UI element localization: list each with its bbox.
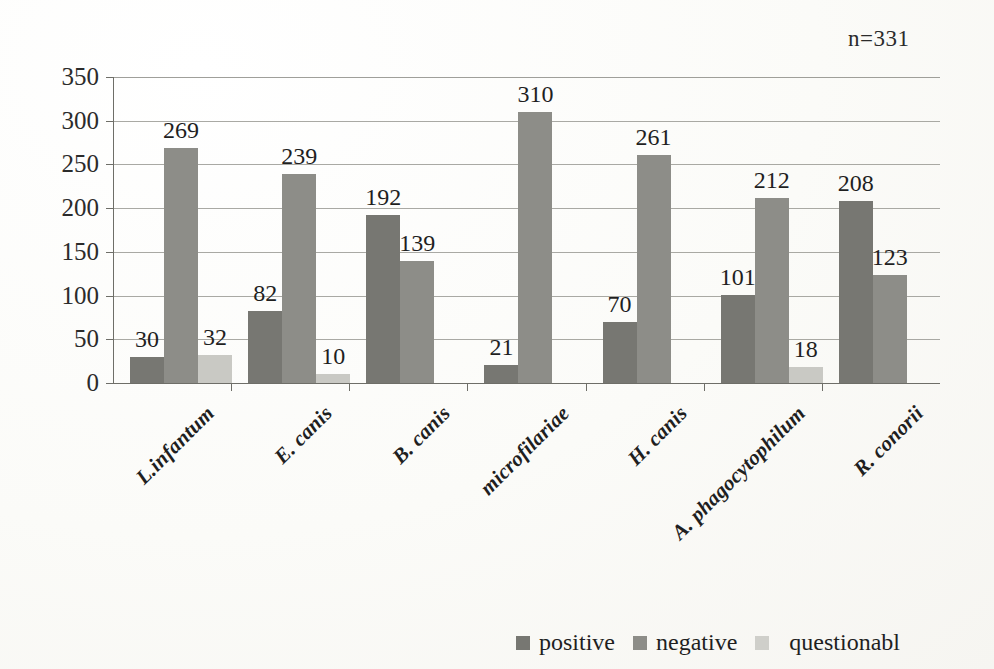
bar-negative-1[interactable] <box>282 174 316 383</box>
bar-positive-3[interactable] <box>484 365 518 383</box>
bar-value-negative-0: 269 <box>163 117 199 144</box>
bar-questionable-0[interactable] <box>198 355 232 383</box>
bar-value-negative-2: 139 <box>399 230 435 257</box>
legend-swatch-positive <box>516 636 530 650</box>
bar-value-questionable-0: 32 <box>203 324 227 351</box>
legend-swatch-questionable <box>755 636 769 650</box>
bar-value-positive-6: 208 <box>838 170 874 197</box>
category-label-1: E. canis <box>270 401 338 469</box>
category-label-text: H. canis <box>622 401 692 471</box>
gridline-350 <box>113 77 940 78</box>
bar-positive-4[interactable] <box>603 322 637 383</box>
x-tick-1 <box>231 383 232 391</box>
bar-value-negative-3: 310 <box>517 81 553 108</box>
category-label-6: R. conorii <box>848 401 928 481</box>
bar-positive-5[interactable] <box>721 295 755 383</box>
bar-value-questionable-5: 18 <box>794 336 818 363</box>
legend-swatch-negative <box>633 636 647 650</box>
bar-value-questionable-1: 10 <box>321 343 345 370</box>
y-tick-label-0: 0 <box>87 369 100 397</box>
category-label-0: L.infantum <box>131 401 220 490</box>
bar-value-positive-0: 30 <box>135 326 159 353</box>
legend-item-negative[interactable]: negative <box>633 629 755 656</box>
bar-negative-3[interactable] <box>518 112 552 383</box>
bar-value-negative-4: 261 <box>636 124 672 151</box>
bar-questionable-1[interactable] <box>316 374 350 383</box>
y-axis-line <box>113 77 114 383</box>
bar-value-positive-4: 70 <box>608 291 632 318</box>
category-label-4: H. canis <box>622 401 692 471</box>
bar-negative-0[interactable] <box>164 148 198 383</box>
y-tick-100 <box>106 296 114 297</box>
y-tick-250 <box>106 164 114 165</box>
bar-value-negative-5: 212 <box>754 167 790 194</box>
bar-value-negative-6: 123 <box>872 244 908 271</box>
y-tick-label-250: 250 <box>62 150 100 178</box>
legend-label-positive: positive <box>539 629 615 656</box>
x-tick-2 <box>349 383 350 391</box>
category-label-text: B. canis <box>388 401 456 469</box>
bar-positive-6[interactable] <box>839 201 873 383</box>
legend-label-questionable: questionabl <box>789 629 900 656</box>
category-label-text: L.infantum <box>131 401 220 490</box>
y-tick-200 <box>106 208 114 209</box>
x-tick-5 <box>704 383 705 391</box>
y-tick-label-150: 150 <box>62 238 100 266</box>
bar-positive-2[interactable] <box>366 215 400 383</box>
y-tick-label-300: 300 <box>62 107 100 135</box>
bar-value-positive-5: 101 <box>720 264 756 291</box>
y-tick-50 <box>106 339 114 340</box>
plot-area: 350300250200150100500 302693282239101921… <box>113 77 940 383</box>
sample-size-annotation: n=331 <box>848 26 909 52</box>
chart-page: n=331 350300250200150100500 302693282239… <box>0 0 994 669</box>
y-tick-300 <box>106 121 114 122</box>
y-tick-0 <box>106 383 114 384</box>
category-label-2: B. canis <box>388 401 456 469</box>
y-tick-350 <box>106 77 114 78</box>
bar-value-positive-1: 82 <box>253 280 277 307</box>
bar-positive-1[interactable] <box>248 311 282 383</box>
bar-value-negative-1: 239 <box>281 143 317 170</box>
bar-positive-0[interactable] <box>130 357 164 383</box>
bar-negative-6[interactable] <box>873 275 907 383</box>
bar-value-positive-3: 21 <box>489 334 513 361</box>
chart-legend: positivenegativequestionabl <box>516 629 994 656</box>
bar-questionable-5[interactable] <box>789 367 823 383</box>
y-tick-150 <box>106 252 114 253</box>
bar-negative-4[interactable] <box>637 155 671 383</box>
y-tick-label-350: 350 <box>62 63 100 91</box>
bar-value-positive-2: 192 <box>365 184 401 211</box>
x-tick-4 <box>586 383 587 391</box>
bar-negative-5[interactable] <box>755 198 789 383</box>
legend-label-negative: negative <box>656 629 737 656</box>
x-tick-3 <box>467 383 468 391</box>
category-label-text: R. conorii <box>848 401 928 481</box>
bar-negative-2[interactable] <box>400 261 434 383</box>
x-tick-6 <box>822 383 823 391</box>
category-label-text: E. canis <box>270 401 338 469</box>
legend-item-questionable[interactable]: questionabl <box>755 629 918 656</box>
y-tick-label-50: 50 <box>74 325 99 353</box>
y-tick-label-100: 100 <box>62 282 100 310</box>
category-label-text: microfilariae <box>475 401 575 501</box>
y-tick-label-200: 200 <box>62 194 100 222</box>
category-label-3: microfilariae <box>475 401 575 501</box>
legend-item-positive[interactable]: positive <box>516 629 633 656</box>
x-axis-line <box>112 383 940 384</box>
